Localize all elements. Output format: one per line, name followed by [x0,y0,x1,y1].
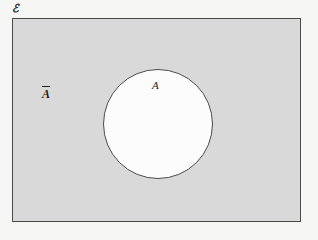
complement-region-label-text: A [42,86,50,100]
set-a-label: A [152,80,159,91]
complement-region-label: A [42,86,50,100]
universal-set-rectangle [12,18,301,222]
venn-diagram-figure: ℰ A A [0,0,318,240]
universal-set-label: ℰ [12,3,19,14]
